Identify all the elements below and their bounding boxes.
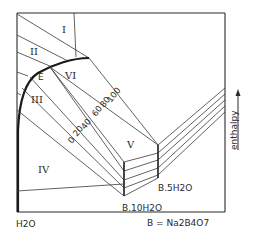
diagram-frame (17, 13, 225, 212)
isotherm-label-100: 100 (105, 85, 123, 104)
x-axis-right-label: B = Na2B4O7 (147, 218, 209, 228)
region-label-iii: III (31, 94, 43, 105)
phase-diagram: I II III IV V VI E 0 20 40 60 80 100 B.1… (0, 0, 254, 243)
region-label-e: E (38, 72, 44, 82)
pentahydrate-label: B.5H2O (158, 183, 192, 193)
region-label-vi: VI (64, 70, 76, 81)
decahydrate-tielines (124, 153, 158, 196)
x-axis-left-label: H2O (16, 219, 36, 229)
region-i-lower-boundary (17, 14, 89, 58)
region-label-v: V (126, 139, 135, 150)
region-i-boundary (74, 13, 76, 57)
region-label-i: I (62, 24, 66, 35)
region-iv-boundary (17, 184, 124, 191)
decahydrate-label: B.10H2O (122, 203, 162, 213)
region-iii-lines (17, 72, 28, 95)
region-label-iv: IV (38, 164, 50, 175)
pentahydrate-tielines (158, 88, 225, 178)
region-label-ii: II (30, 46, 38, 57)
